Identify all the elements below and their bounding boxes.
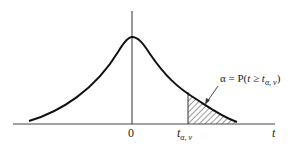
annotation-relation: ≥: [250, 72, 262, 84]
alpha-annotation: α = P(t ≥ tα, ν): [220, 72, 280, 87]
critical-value-label: tα, ν: [177, 126, 192, 142]
annotation-suffix: ): [277, 72, 281, 84]
annotation-prefix: α = P(: [220, 72, 247, 84]
origin-label: 0: [128, 126, 134, 141]
annotation-sub: α, ν: [265, 78, 277, 87]
x-axis-label: t: [272, 126, 275, 141]
critical-value-sub: α, ν: [180, 133, 192, 142]
